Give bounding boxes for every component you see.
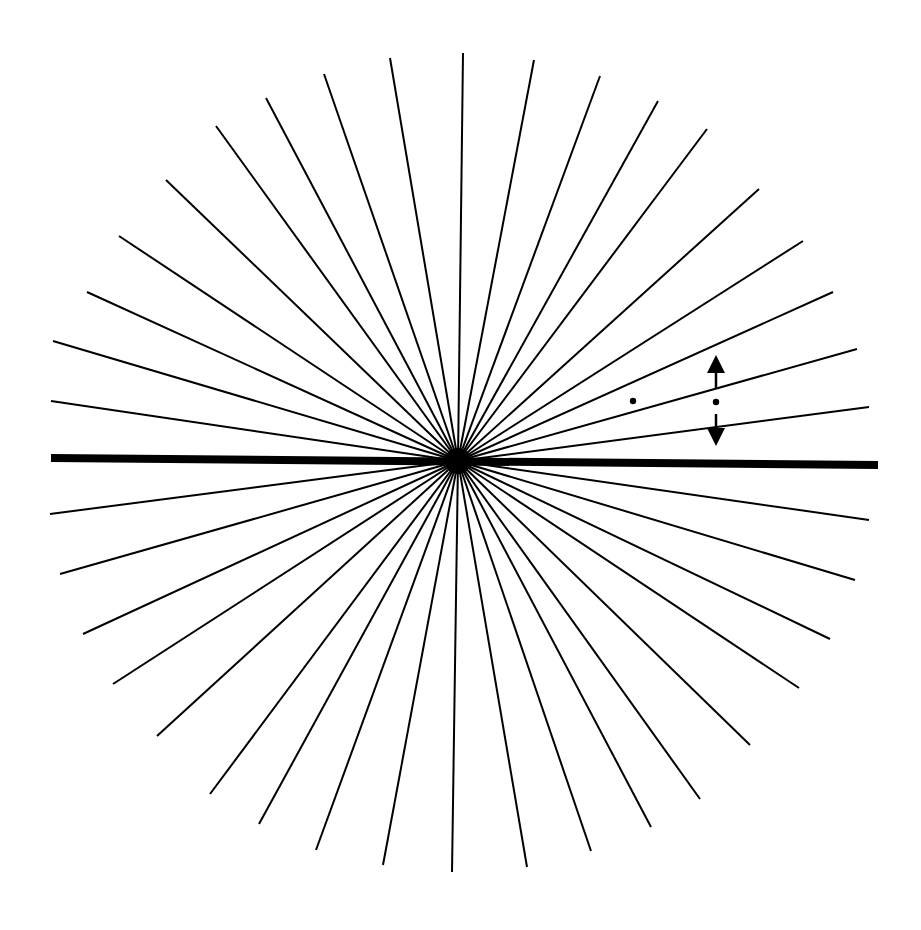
reference-dot-left	[630, 398, 636, 404]
reference-dot-right	[713, 399, 719, 405]
radial-lines-figure	[0, 0, 921, 930]
center-hub	[445, 448, 471, 474]
